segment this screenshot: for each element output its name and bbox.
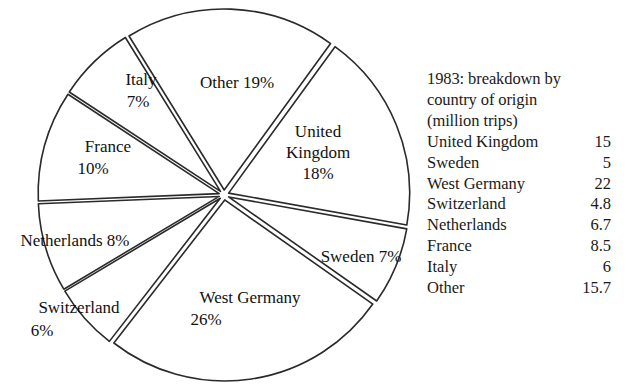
- pie-chart-svg: United Kingdom 18% Sweden 7% West German…: [0, 0, 420, 384]
- legend-value-sweden: 5: [575, 153, 611, 174]
- legend-title: 1983: breakdown by country of origin (mi…: [427, 68, 617, 131]
- legend-value-west-germany: 22: [575, 174, 611, 195]
- legend-row: West Germany22: [427, 174, 611, 195]
- legend-country-sweden: Sweden: [427, 153, 575, 174]
- slice-label-france-line2: 10%: [77, 159, 108, 178]
- legend-row: United Kingdom15: [427, 132, 611, 153]
- slice-label-other: Other 19%: [200, 73, 274, 92]
- legend-country-netherlands: Netherlands: [427, 215, 575, 236]
- slice-label-united-kingdom-line1: United: [295, 122, 342, 141]
- slice-label-west-germany-line1: West Germany: [199, 288, 301, 307]
- legend-row: Sweden5: [427, 153, 611, 174]
- legend-country-france: France: [427, 236, 575, 257]
- slice-label-netherlands: Netherlands 8%: [20, 231, 129, 250]
- slice-label-italy-line2: 7%: [127, 92, 150, 111]
- pie-chart-figure: United Kingdom 18% Sweden 7% West German…: [0, 0, 626, 384]
- slice-label-france-line1: France: [85, 137, 131, 156]
- legend-table: United Kingdom15Sweden5West Germany22Swi…: [427, 132, 611, 298]
- legend-row: Netherlands6.7: [427, 215, 611, 236]
- slice-label-united-kingdom-line2: Kingdom: [286, 143, 350, 162]
- legend-country-switzerland: Switzerland: [427, 194, 575, 215]
- legend-country-united-kingdom: United Kingdom: [427, 132, 575, 153]
- legend-row: France8.5: [427, 236, 611, 257]
- legend-country-west-germany: West Germany: [427, 174, 575, 195]
- legend-value-italy: 6: [575, 257, 611, 278]
- legend-panel: 1983: breakdown by country of origin (mi…: [427, 68, 617, 298]
- slice-label-italy-line1: Italy: [125, 70, 157, 89]
- legend-country-other: Other: [427, 278, 575, 299]
- legend-row: Switzerland4.8: [427, 194, 611, 215]
- pie-slices-group: [38, 9, 409, 381]
- legend-value-netherlands: 6.7: [575, 215, 611, 236]
- legend-country-italy: Italy: [427, 257, 575, 278]
- slice-label-west-germany-line2: 26%: [190, 310, 221, 329]
- slice-label-switzerland-line2: 6%: [31, 321, 54, 340]
- legend-row: Other15.7: [427, 278, 611, 299]
- pie-chart-area: United Kingdom 18% Sweden 7% West German…: [0, 0, 420, 384]
- slice-label-sweden: Sweden 7%: [321, 247, 402, 266]
- legend-value-other: 15.7: [575, 278, 611, 299]
- legend-value-united-kingdom: 15: [575, 132, 611, 153]
- legend-value-france: 8.5: [575, 236, 611, 257]
- legend-row: Italy6: [427, 257, 611, 278]
- legend-value-switzerland: 4.8: [575, 194, 611, 215]
- legend-table-body: United Kingdom15Sweden5West Germany22Swi…: [427, 132, 611, 298]
- slice-label-united-kingdom-line3: 18%: [302, 164, 333, 183]
- slice-label-switzerland-line1: Switzerland: [38, 298, 120, 317]
